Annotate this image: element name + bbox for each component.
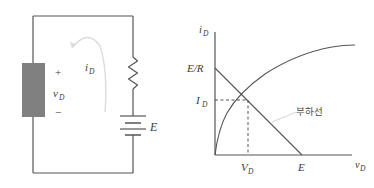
diode-voltage-label: v D xyxy=(53,87,65,102)
circuit-diagram: E + v D − i D xyxy=(22,16,158,173)
y-tick-id-symbol: I xyxy=(195,94,201,106)
battery-label-E: E xyxy=(149,120,158,134)
x-tick-label-vd: V D xyxy=(241,161,254,176)
diode-load-line-figure: E + v D − i D xyxy=(0,0,374,188)
current-direction-arrow xyxy=(70,37,106,112)
diode-voltage-symbol: v xyxy=(53,87,58,99)
figure-root: E + v D − i D xyxy=(0,0,374,188)
y-axis-label-subscript: D xyxy=(202,29,209,38)
x-tick-label-e: E xyxy=(297,161,305,173)
plus-sign-label: + xyxy=(55,66,61,78)
y-tick-label-id: I D xyxy=(195,94,208,109)
minus-sign-label: − xyxy=(55,106,61,118)
y-tick-id-subscript: D xyxy=(201,100,208,109)
load-line-graph: i D v D E/R I D V xyxy=(186,24,366,176)
load-line-annotation: 부하선 xyxy=(296,106,323,117)
x-axis-label: v D xyxy=(355,159,366,173)
resistor xyxy=(129,57,138,89)
circuit-current-symbol: i xyxy=(85,61,88,73)
battery xyxy=(120,116,146,135)
diode-block xyxy=(22,63,45,117)
y-tick-label-e-over-r: E/R xyxy=(186,62,204,74)
y-axis-label: i D xyxy=(199,24,209,38)
y-axis-label-symbol: i xyxy=(199,24,202,35)
circuit-current-subscript: D xyxy=(88,67,95,76)
x-tick-vd-subscript: D xyxy=(247,167,254,176)
annotation-leader-line xyxy=(272,112,296,122)
circuit-current-label: i D xyxy=(85,61,95,76)
x-axis-label-subscript: D xyxy=(359,164,366,173)
diode-voltage-subscript: D xyxy=(58,93,65,102)
resistor-zigzag xyxy=(129,57,138,89)
